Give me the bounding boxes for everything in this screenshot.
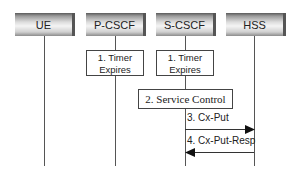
step-timer-pcscf: 1. Timer Expires [86, 50, 144, 76]
step-label: 1. Timer [157, 52, 213, 64]
step-service-control: 2. Service Control [138, 89, 233, 109]
step-label-2: Expires [157, 64, 213, 76]
arrowhead-left-icon [185, 148, 195, 157]
msg-cx-put-arrow [185, 129, 247, 130]
header-hss: HSS [226, 13, 286, 36]
step-label: 1. Timer [87, 52, 143, 64]
lifeline-ue [44, 36, 45, 166]
header-pcscf: P-CSCF [86, 13, 146, 36]
header-ue: UE [15, 13, 75, 36]
step-timer-scscf: 1. Timer Expires [156, 50, 214, 76]
header-scscf: S-CSCF [156, 13, 216, 36]
lifeline-hss [254, 36, 255, 166]
msg-cx-put-resp-arrow [193, 152, 254, 153]
step-label-2: Expires [87, 64, 143, 76]
msg-cx-put-resp-label: 4. Cx-Put-Resp [187, 135, 255, 146]
arrowhead-right-icon [245, 125, 255, 134]
msg-cx-put-label: 3. Cx-Put [187, 112, 229, 123]
